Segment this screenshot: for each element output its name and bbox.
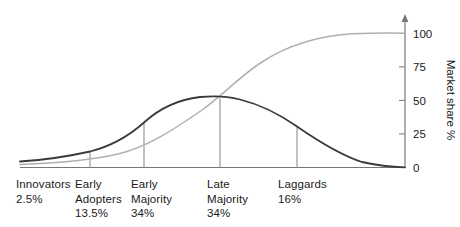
segment-label-early-adopters-line3: 13.5% [75, 206, 122, 221]
segment-label-laggards: Laggards 16% [278, 177, 327, 206]
y-axis-title: Market share % [445, 60, 457, 141]
segment-label-innovators-line1: Innovators [16, 177, 71, 192]
segment-label-early-majority: Early Majority 34% [131, 177, 172, 221]
y-tick-label-75: 75 [413, 61, 426, 73]
y-tick-label-50: 50 [413, 95, 426, 107]
adoption-lifecycle-chart: 100 75 50 25 0 Market share % Innovators… [0, 0, 460, 227]
y-tick-label-100: 100 [413, 28, 432, 40]
segment-label-early-majority-line3: 34% [131, 206, 172, 221]
segment-label-late-majority-line3: 34% [207, 206, 248, 221]
segment-label-innovators: Innovators 2.5% [16, 177, 71, 206]
segment-label-late-majority: Late Majority 34% [207, 177, 248, 221]
y-tick-label-25: 25 [413, 128, 426, 140]
segment-label-early-adopters-line1: Early [75, 177, 122, 192]
y-axis-arrow-icon [402, 14, 409, 22]
segment-label-early-majority-line1: Early [131, 177, 172, 192]
segment-label-laggards-line2: 16% [278, 192, 327, 207]
segment-label-innovators-line2: 2.5% [16, 192, 71, 207]
cumulative-s-curve [20, 33, 405, 165]
y-tick-label-0: 0 [413, 162, 419, 174]
segment-label-early-majority-line2: Majority [131, 192, 172, 207]
segment-label-laggards-line1: Laggards [278, 177, 327, 192]
segment-label-early-adopters-line2: Adopters [75, 192, 122, 207]
segment-label-late-majority-line1: Late [207, 177, 248, 192]
adoption-bell-curve [20, 96, 405, 167]
segment-label-late-majority-line2: Majority [207, 192, 248, 207]
segment-label-early-adopters: Early Adopters 13.5% [75, 177, 122, 221]
